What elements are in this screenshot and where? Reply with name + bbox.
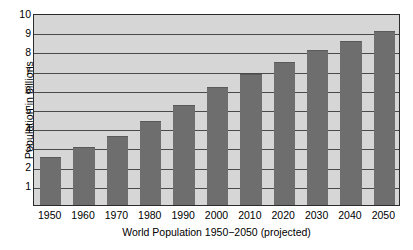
y-tick-label: 1	[0, 181, 31, 192]
y-tick-label: 9	[0, 28, 31, 39]
y-tick-label: 3	[0, 143, 31, 154]
x-tick-label: 1980	[133, 209, 166, 221]
x-tick-label: 1970	[100, 209, 133, 221]
x-tick-label: 1990	[166, 209, 199, 221]
bar	[274, 62, 295, 205]
x-tick-label: 2010	[233, 209, 266, 221]
bar-chart: Population in billions 10987654321 19501…	[0, 0, 413, 250]
bar	[307, 50, 328, 205]
x-tick-label: 1960	[66, 209, 99, 221]
x-axis-tick-labels: 1950196019701980199020002010202020302040…	[33, 209, 400, 223]
x-tick-label: 2040	[333, 209, 366, 221]
bar	[40, 157, 61, 205]
x-tick-label: 2000	[200, 209, 233, 221]
y-axis-tick-labels: 10987654321	[0, 0, 31, 250]
y-tick-label: 10	[0, 9, 31, 20]
y-tick-label: 6	[0, 85, 31, 96]
x-tick-label: 2050	[367, 209, 400, 221]
x-axis-title: World Population 1950−2050 (projected)	[33, 226, 400, 238]
bar	[173, 105, 194, 205]
x-tick-label: 1950	[33, 209, 66, 221]
y-tick-label: 4	[0, 124, 31, 135]
y-tick-label: 8	[0, 47, 31, 58]
bar	[73, 147, 94, 205]
bars-group	[34, 15, 399, 205]
bar	[374, 31, 395, 205]
y-tick-label: 7	[0, 66, 31, 77]
x-tick-label: 2030	[300, 209, 333, 221]
bar	[240, 74, 261, 205]
bar	[207, 87, 228, 205]
bar	[107, 136, 128, 205]
y-tick-label: 2	[0, 162, 31, 173]
y-tick-label: 5	[0, 105, 31, 116]
bar	[340, 41, 361, 205]
x-tick-label: 2020	[267, 209, 300, 221]
plot-area	[33, 14, 400, 206]
bar	[140, 121, 161, 205]
